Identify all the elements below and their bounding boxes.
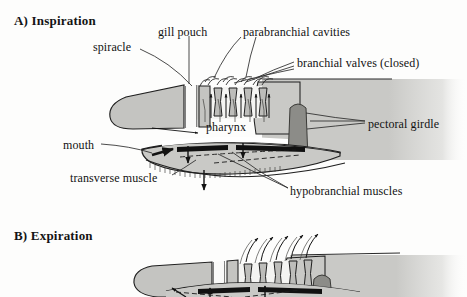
label-transverse-muscle: transverse muscle	[70, 171, 157, 186]
head-snout-a	[110, 85, 184, 129]
label-mouth: mouth	[63, 138, 94, 153]
panel-a-title: A) Inspiration	[14, 13, 96, 29]
label-spiracle: spiracle	[93, 40, 131, 55]
label-pharynx: pharynx	[206, 120, 246, 135]
label-parabranchial-cavities: parabranchial cavities	[243, 25, 350, 40]
panel-b-title: B) Expiration	[14, 228, 93, 244]
spiracle-slot-a	[186, 85, 198, 128]
panel-b-expiration	[134, 234, 467, 297]
label-pectoral-girdle: pectoral girdle	[368, 117, 439, 132]
label-gill-pouch: gill pouch	[158, 25, 207, 40]
label-hypobranchial-muscles: hypobranchial muscles	[290, 184, 402, 199]
label-branchial-valves: branchial valves (closed)	[297, 56, 419, 71]
